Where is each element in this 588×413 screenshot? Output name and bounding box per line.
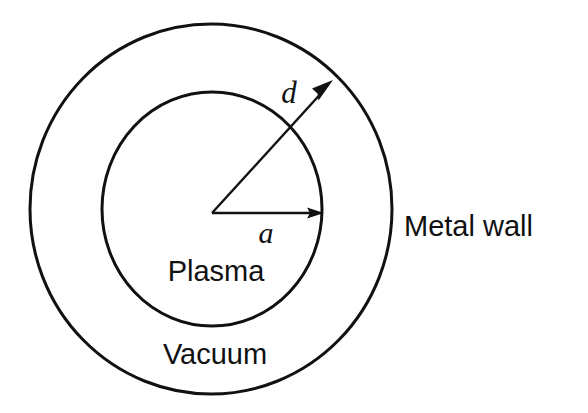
radius-d-label: d	[281, 75, 297, 110]
plasma-vacuum-metal-wall-diagram: a d Plasma Vacuum Metal wall	[0, 0, 588, 413]
radius-d-arrow	[212, 80, 333, 213]
diagram-canvas: a d Plasma Vacuum Metal wall	[0, 0, 588, 413]
vacuum-region-label: Vacuum	[163, 338, 267, 370]
plasma-region-label: Plasma	[168, 255, 266, 287]
radius-d-arrowhead	[312, 80, 333, 101]
radius-a-label: a	[259, 216, 274, 249]
metal-wall-label: Metal wall	[404, 210, 533, 242]
